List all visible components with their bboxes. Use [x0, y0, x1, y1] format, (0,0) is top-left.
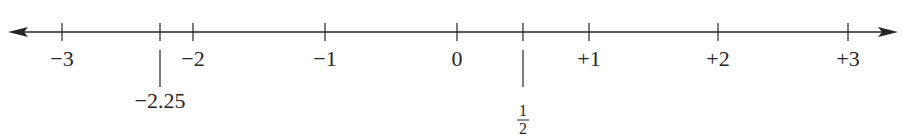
tick-label: −2: [181, 46, 204, 71]
tick-label: +2: [706, 46, 729, 71]
tick-label: +3: [836, 46, 859, 71]
fraction-denominator: 2: [519, 120, 527, 137]
tick-label: +1: [577, 46, 600, 71]
number-line-svg: −3−2−10+1+2+3 −2.2512: [0, 0, 904, 138]
tick-label: 0: [452, 46, 463, 71]
tick: −2: [181, 23, 204, 71]
tick-marks: −3−2−10+1+2+3: [50, 23, 859, 71]
marker-fraction: 12: [517, 23, 529, 137]
tick: +3: [836, 23, 859, 71]
tick: −3: [50, 23, 73, 71]
point-markers: −2.2512: [135, 23, 529, 137]
marker-label: −2.25: [135, 88, 186, 113]
tick: 0: [452, 23, 463, 71]
number-line-figure: −3−2−10+1+2+3 −2.2512: [0, 0, 904, 138]
tick-label: −1: [313, 46, 336, 71]
marker-decimal: −2.25: [135, 23, 186, 113]
tick: −1: [313, 23, 336, 71]
tick-label: −3: [50, 46, 73, 71]
tick: +2: [706, 23, 729, 71]
fraction-numerator: 1: [519, 102, 527, 119]
tick: +1: [577, 23, 600, 71]
